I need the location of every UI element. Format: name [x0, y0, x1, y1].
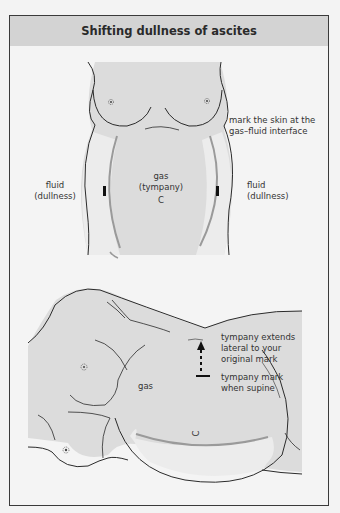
- label-tympany-supine-mark: tympany mark when supine: [221, 372, 283, 394]
- illustration: [0, 0, 340, 513]
- label-fluid-left: fluid (dullness): [30, 180, 80, 202]
- supine-torso: [81, 62, 233, 258]
- label-mark-skin: mark the skin at the gas–fluid interface: [229, 115, 315, 137]
- label-gas-lateral: gas: [138, 381, 153, 392]
- label-tympany-extends: tympany extends lateral to your original…: [221, 332, 295, 365]
- label-gas-tympany: gas (tympany) C: [130, 171, 192, 206]
- navel-supine: C: [130, 195, 192, 206]
- navel-lateral: C: [191, 431, 202, 437]
- skin-mark-left: [103, 186, 106, 196]
- label-fluid-right: fluid (dullness): [247, 180, 289, 202]
- skin-mark-right: [216, 186, 219, 196]
